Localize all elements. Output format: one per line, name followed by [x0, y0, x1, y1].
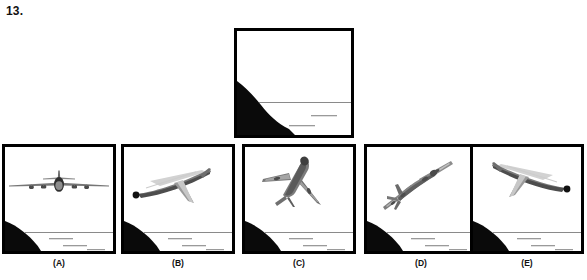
option-e-frame[interactable] [470, 144, 584, 254]
water-dash [289, 238, 313, 239]
option-c-landscape [245, 147, 353, 254]
landscape-svg [5, 147, 113, 251]
water-dash [63, 245, 87, 246]
water-dash [311, 115, 337, 116]
horizon-line [265, 232, 353, 233]
water-dash [87, 249, 105, 250]
water-dash [425, 245, 449, 246]
option-d[interactable]: (D) [364, 144, 478, 254]
horizon-line [387, 232, 475, 233]
reference-landscape [237, 31, 351, 135]
landscape-svg [245, 147, 353, 251]
option-d-frame[interactable] [364, 144, 478, 254]
water-dash [168, 238, 192, 239]
option-c-label: (C) [242, 258, 356, 268]
option-d-label: (D) [364, 258, 478, 268]
option-b-frame[interactable] [121, 144, 235, 254]
water-dash [206, 249, 224, 250]
water-dash [531, 245, 555, 246]
water-dash [303, 245, 327, 246]
water-dash [289, 125, 315, 126]
water-dash [49, 238, 73, 239]
reference-landscape-svg [237, 31, 351, 135]
option-a-frame[interactable] [2, 144, 116, 254]
option-c[interactable]: (C) [242, 144, 356, 254]
option-a-label: (A) [2, 258, 116, 268]
landscape-svg [367, 147, 475, 251]
landscape-svg [124, 147, 232, 251]
water-dash [555, 249, 573, 250]
options-row: (A) [0, 144, 587, 254]
water-dash [449, 249, 467, 250]
option-a-landscape [5, 147, 113, 254]
horizon-line [25, 232, 113, 233]
option-e[interactable]: (E) [470, 144, 584, 254]
option-e-label: (E) [470, 258, 584, 268]
water-dash [411, 238, 435, 239]
option-b-label: (B) [121, 258, 235, 268]
reference-panel [234, 28, 354, 138]
horizon-line [493, 232, 581, 233]
option-d-landscape [367, 147, 475, 254]
option-b[interactable]: (B) [121, 144, 235, 254]
option-c-frame[interactable] [242, 144, 356, 254]
question-number: 13. [6, 4, 23, 18]
option-a[interactable]: (A) [2, 144, 116, 254]
landscape-svg [473, 147, 581, 251]
option-e-landscape [473, 147, 581, 254]
horizon-line [259, 102, 351, 103]
water-dash [327, 249, 345, 250]
option-b-landscape [124, 147, 232, 254]
water-dash [182, 245, 206, 246]
horizon-line [144, 232, 232, 233]
water-dash [517, 238, 541, 239]
